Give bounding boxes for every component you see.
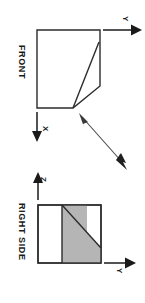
drawing-canvas: FRONT Y X RIGHT SIDE Z Y (0, 0, 145, 303)
front-axis-y-arrow (103, 25, 142, 36)
front-axis-x-label: X (41, 126, 49, 131)
front-axis-y-label: Y (121, 16, 129, 21)
leader-arrow (79, 113, 127, 170)
right-side-axis-y-label: Y (115, 268, 123, 273)
right-side-axis-z-label: Z (39, 177, 47, 182)
front-view-title: FRONT (17, 45, 26, 79)
right-side-view-title: RIGHT SIDE (17, 203, 26, 261)
front-view-geometry (37, 30, 100, 108)
leader-arrowhead-upper (79, 113, 88, 130)
front-view-outline (37, 30, 100, 108)
right-side-axis-y-arrow (104, 258, 136, 269)
leader-arrowhead-lower-wing (116, 153, 126, 163)
right-side-view-geometry (38, 205, 101, 263)
